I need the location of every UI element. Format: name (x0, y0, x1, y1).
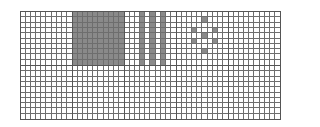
grid-cell (275, 114, 280, 119)
grid-block-stripes (124, 11, 177, 66)
grid-block-empty (228, 65, 281, 120)
grid-block-empty (20, 65, 73, 120)
grid-block-empty (124, 65, 177, 120)
grid-block-empty (176, 65, 229, 120)
block-row (20, 11, 280, 65)
block-grid (20, 11, 280, 119)
grid-block-empty (72, 65, 125, 120)
grid-block-empty (228, 11, 281, 66)
block-row (20, 65, 280, 119)
grid-block-empty (20, 11, 73, 66)
grid-block-dots (176, 11, 229, 66)
grid-block-solid (72, 11, 125, 66)
